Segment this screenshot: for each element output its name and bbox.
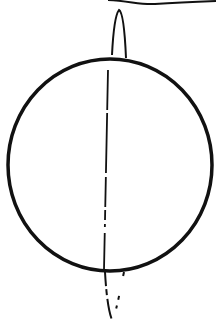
vertical-axis-line (104, 70, 108, 270)
bottom-loop (105, 272, 124, 320)
main-circle (8, 59, 212, 271)
top-loop (112, 10, 126, 58)
diagram-canvas (0, 0, 216, 330)
top-curve-line (108, 0, 216, 4)
